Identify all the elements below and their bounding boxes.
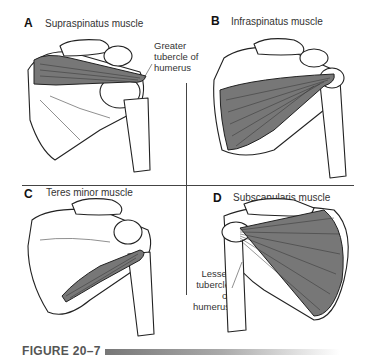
infraspinatus-illustration [184, 0, 368, 180]
supraspinatus-illustration [0, 0, 184, 180]
teres-minor-illustration [0, 170, 184, 340]
subscapularis-illustration [184, 170, 368, 340]
figure-caption: FIGURE 20–7 [22, 344, 101, 358]
caption-gradient-bar [105, 349, 340, 355]
